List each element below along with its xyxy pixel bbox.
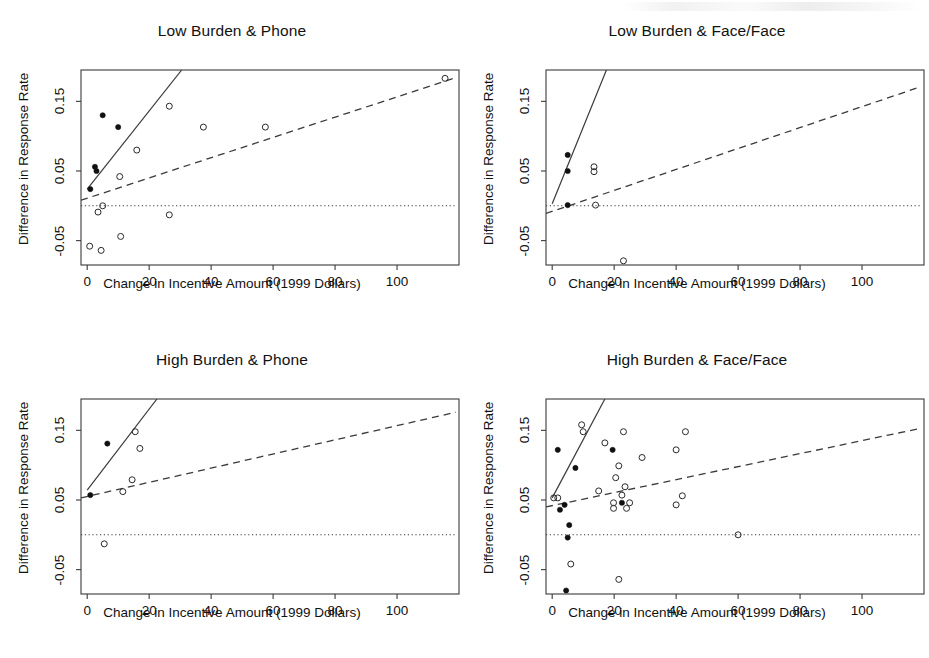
- y-axis-label: Difference in Response Rate: [481, 402, 496, 574]
- data-point-open: [616, 576, 622, 582]
- x-axis-label: Change in Incentive Amount (1999 Dollars…: [465, 276, 929, 291]
- data-point-open: [579, 422, 585, 428]
- data-point-open: [137, 445, 143, 451]
- data-point-open: [568, 561, 574, 567]
- data-point-filled: [116, 125, 121, 130]
- plot-frame: [81, 70, 459, 265]
- data-point-open: [619, 492, 625, 498]
- figure-root: Low Burden & Phone-0.050.050.15020406080…: [0, 0, 929, 658]
- panel-low-burden-face-face: Low Burden & Face/Face-0.050.050.1502040…: [465, 0, 929, 329]
- data-point-filled: [567, 522, 572, 527]
- data-point-open: [95, 209, 101, 215]
- data-point-open: [620, 429, 626, 435]
- dashed-fit-line: [546, 428, 921, 507]
- data-point-open: [613, 475, 619, 481]
- data-point-filled: [88, 493, 93, 498]
- x-axis-label: Change in Incentive Amount (1999 Dollars…: [0, 276, 464, 291]
- data-point-filled: [88, 186, 93, 191]
- solid-fit-line: [552, 70, 606, 204]
- data-point-filled: [565, 168, 570, 173]
- data-point-filled: [565, 535, 570, 540]
- data-point-open: [442, 75, 448, 81]
- data-point-filled: [100, 113, 105, 118]
- data-point-open: [593, 202, 599, 208]
- plot-frame: [546, 70, 924, 265]
- data-point-open: [682, 429, 688, 435]
- x-axis-label: Change in Incentive Amount (1999 Dollars…: [465, 605, 929, 620]
- data-point-filled: [562, 502, 567, 507]
- data-point-open: [166, 103, 172, 109]
- x-axis-label: Change in Incentive Amount (1999 Dollars…: [0, 605, 464, 620]
- data-point-filled: [573, 465, 578, 470]
- data-point-open: [622, 484, 628, 490]
- data-point-open: [262, 124, 268, 130]
- data-point-open: [620, 258, 626, 264]
- data-point-open: [580, 429, 586, 435]
- y-axis-label: Difference in Response Rate: [481, 73, 496, 245]
- data-point-filled: [555, 447, 560, 452]
- panel-high-burden-face-face: High Burden & Face/Face-0.050.050.150204…: [465, 329, 929, 658]
- dashed-fit-line: [546, 87, 921, 214]
- y-axis-label: Difference in Response Rate: [16, 402, 31, 574]
- data-point-filled: [565, 152, 570, 157]
- data-point-open: [87, 243, 93, 249]
- plot-frame: [546, 399, 924, 594]
- data-point-open: [673, 447, 679, 453]
- solid-fit-line: [87, 399, 157, 490]
- data-point-open: [129, 477, 135, 483]
- y-axis-label: Difference in Response Rate: [16, 73, 31, 245]
- data-point-filled: [610, 447, 615, 452]
- data-point-filled: [94, 168, 99, 173]
- data-point-open: [101, 541, 107, 547]
- data-point-filled: [105, 441, 110, 446]
- data-point-open: [679, 493, 685, 499]
- solid-fit-line: [87, 70, 181, 189]
- data-point-open: [134, 147, 140, 153]
- data-point-open: [118, 233, 124, 239]
- panel-low-burden-phone: Low Burden & Phone-0.050.050.15020406080…: [0, 0, 464, 329]
- data-point-open: [120, 489, 126, 495]
- data-point-filled: [557, 507, 562, 512]
- data-point-open: [673, 502, 679, 508]
- data-point-open: [98, 247, 104, 253]
- data-point-open: [117, 174, 123, 180]
- panel-high-burden-phone: High Burden & Phone-0.050.050.1502040608…: [0, 329, 464, 658]
- plot-frame: [81, 399, 459, 594]
- data-point-open: [200, 124, 206, 130]
- data-point-open: [602, 440, 608, 446]
- data-point-open: [132, 429, 138, 435]
- dashed-fit-line: [81, 78, 456, 201]
- data-point-open: [627, 500, 633, 506]
- data-point-open: [555, 495, 561, 501]
- data-point-open: [624, 505, 630, 511]
- data-point-open: [596, 488, 602, 494]
- data-point-open: [639, 455, 645, 461]
- data-point-filled: [565, 203, 570, 208]
- data-point-filled: [619, 500, 624, 505]
- data-point-open: [166, 212, 172, 218]
- data-point-filled: [564, 588, 569, 593]
- data-point-open: [616, 463, 622, 469]
